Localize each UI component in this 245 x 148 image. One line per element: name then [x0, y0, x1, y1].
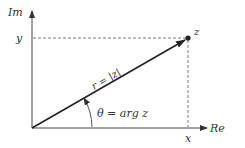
point-z — [185, 35, 190, 40]
angle-label: θ = arg z — [97, 107, 148, 120]
real-axis-label: Re — [209, 122, 225, 135]
complex-plane-diagram: Im y z x Re r = |z| θ = arg z — [0, 0, 245, 148]
point-z-label: z — [193, 26, 200, 37]
y-value-label: y — [15, 32, 23, 45]
x-value-label: x — [185, 132, 192, 145]
imaginary-axis-label: Im — [7, 6, 23, 19]
angle-arc — [84, 98, 92, 127]
